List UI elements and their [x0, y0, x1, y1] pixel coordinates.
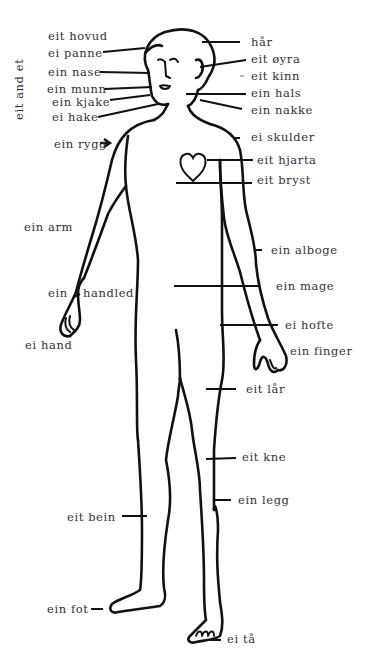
label-lar: eit lår [246, 383, 285, 395]
label-kne: eit kne [242, 451, 286, 463]
label-hjarta: eit hjarta [257, 154, 317, 166]
label-fot: ein fot [47, 603, 89, 615]
label-bein: eit bein [67, 511, 116, 523]
label-handled-article: ein [48, 287, 68, 299]
label-finger: ein finger [290, 345, 353, 357]
label-nakke: ein nakke [251, 104, 313, 116]
label-skulder: ei skulder [251, 131, 315, 143]
label-rygg: ein rygg [54, 138, 107, 150]
label-hake: ei hake [52, 111, 98, 123]
label-arm: ein arm [24, 221, 73, 233]
label-hals: ein hals [251, 87, 301, 99]
label-kjake: ein kjake [52, 96, 110, 108]
label-hand: ei hand [25, 339, 72, 351]
label-hovud: eit hovud [48, 30, 108, 42]
label-munn: ein munn [47, 83, 106, 95]
label-oyra: eit øyra [251, 53, 300, 65]
label-mage: ein mage [276, 280, 334, 292]
label-nase: ein nase [48, 66, 101, 78]
body-parts-diagram: eit and et eit hovud ei panne ein nase e… [0, 0, 365, 663]
label-hofte: ei hofte [285, 319, 334, 331]
heart-icon [180, 154, 205, 181]
label-alboge: ein alboge [271, 244, 338, 256]
label-har: hår [251, 36, 273, 48]
label-bryst: eit bryst [257, 174, 311, 186]
label-handled: handled [83, 287, 134, 299]
label-legg: ein legg [238, 494, 290, 506]
label-panne: ei panne [48, 47, 103, 59]
label-ta: ei tå [227, 633, 256, 645]
ear [196, 60, 203, 78]
label-kinn: eit kinn [251, 70, 300, 82]
vertical-caption: eit and et [12, 59, 26, 120]
